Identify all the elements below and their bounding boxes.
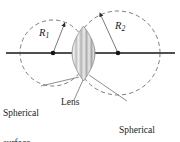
right-caption-line-1: Spherical [119, 125, 155, 135]
radius-2-subscript: 2 [121, 24, 125, 33]
lens-label: Lens [61, 97, 79, 107]
lens-label-text: Lens [61, 97, 79, 107]
lens-body [72, 26, 95, 81]
radius-2-label: R2 [115, 20, 125, 33]
radius-1-subscript: 1 [45, 31, 49, 40]
left-spherical-surface-caption: Spherical surface, radius R2 [3, 87, 39, 142]
radius-1-label: R1 [39, 27, 49, 40]
radius-1-line [53, 25, 64, 54]
center-of-curvature-right-dot [116, 51, 121, 56]
lens-diagram-figure: R1 R2 Lens Spherical surface, radius R2 … [0, 0, 180, 142]
right-spherical-surface-caption: Spherical surface, radius R1 [119, 104, 155, 142]
left-caption-line-2: surface, [3, 138, 39, 142]
leader-line-left-caption [41, 77, 79, 86]
left-caption-line-1: Spherical [3, 108, 39, 118]
center-of-curvature-left-dot [51, 51, 56, 56]
